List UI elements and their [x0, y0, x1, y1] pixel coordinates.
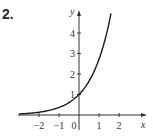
y-axis-arrow-icon	[77, 10, 81, 16]
y-tick-label: 2	[70, 69, 75, 80]
x-tick-label: 1	[97, 120, 102, 131]
x-tick-label: −1	[54, 120, 65, 131]
x-axis-label: x	[140, 119, 146, 130]
x-axis-arrow-icon	[141, 113, 147, 117]
x-axis: −2−1012 x	[18, 113, 147, 131]
y-tick-label: 3	[70, 48, 75, 59]
exponential-chart: −2−1012 x 1234 y	[0, 0, 153, 136]
y-tick-label: 4	[70, 28, 75, 39]
x-tick-label: −2	[34, 120, 45, 131]
x-tick-label: 2	[117, 120, 122, 131]
y-axis: 1234 y	[69, 6, 81, 130]
x-tick-label: 0	[72, 120, 77, 131]
exponential-curve	[19, 13, 111, 114]
y-axis-label: y	[69, 6, 75, 17]
